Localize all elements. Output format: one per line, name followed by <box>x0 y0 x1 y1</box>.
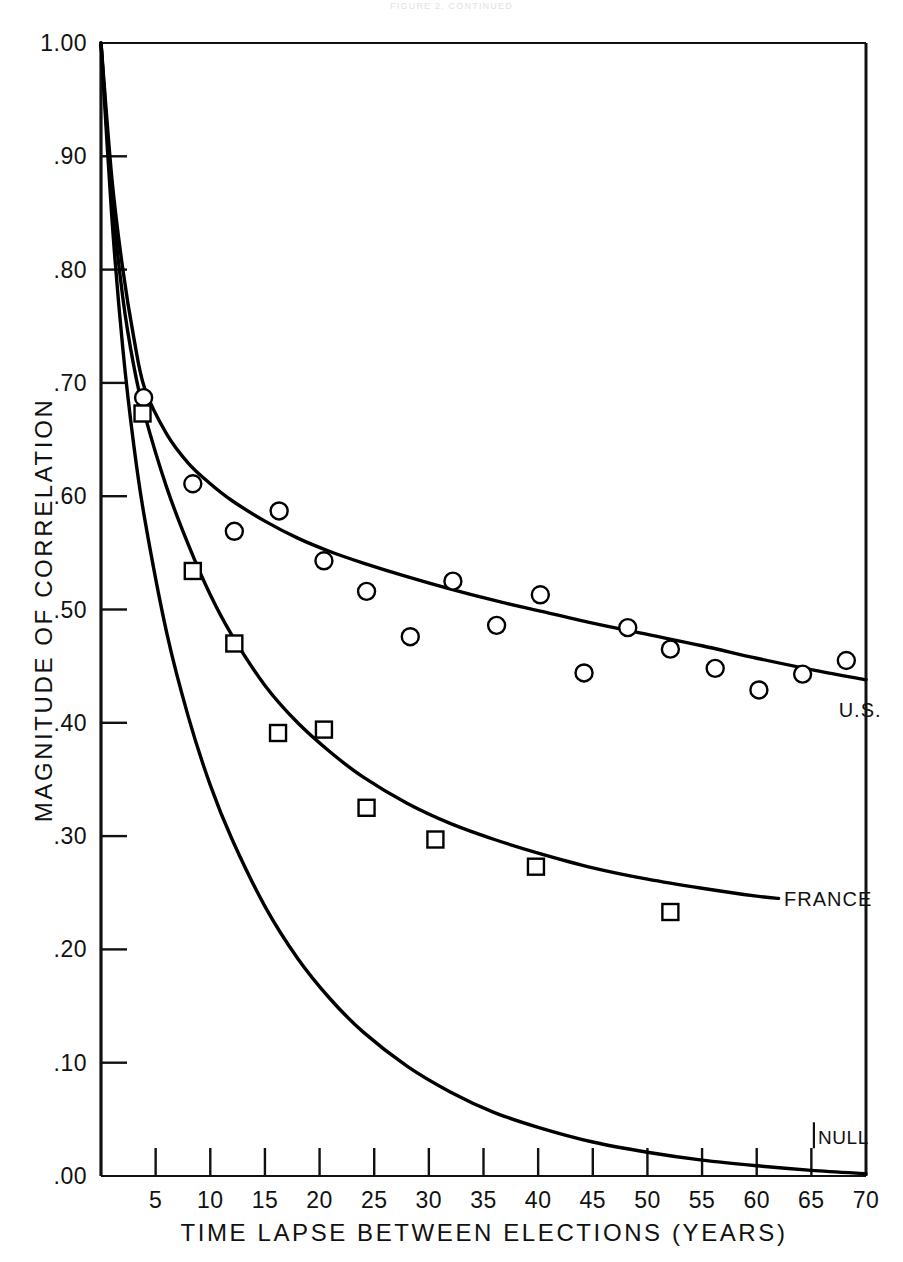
y-axis-title: MAGNITUDE OF CORRELATION <box>30 398 57 823</box>
data-point-france <box>226 635 242 651</box>
y-tick-label: .50 <box>54 597 87 623</box>
data-point-us <box>794 666 811 683</box>
data-point-us <box>707 660 724 677</box>
data-point-us <box>488 617 505 634</box>
data-point-france <box>135 405 151 421</box>
data-point-us <box>750 681 767 698</box>
data-point-us <box>271 502 288 519</box>
x-axis-title: TIME LAPSE BETWEEN ELECTIONS (YEARS) <box>180 1219 787 1246</box>
y-tick-label: .60 <box>54 483 87 509</box>
x-tick-label: 15 <box>252 1187 279 1213</box>
x-tick-label: 20 <box>306 1187 333 1213</box>
x-tick-label: 25 <box>361 1187 388 1213</box>
data-point-france <box>185 563 201 579</box>
data-point-us <box>444 573 461 590</box>
y-tick-label: .90 <box>54 143 87 169</box>
data-point-france <box>662 904 678 920</box>
x-tick-label: 50 <box>634 1187 661 1213</box>
x-tick-label: 40 <box>525 1187 552 1213</box>
data-point-us <box>532 586 549 603</box>
y-tick-label: 1.00 <box>40 30 87 56</box>
x-tick-label: 5 <box>149 1187 162 1213</box>
y-tick-label: .70 <box>54 370 87 396</box>
curve-us <box>101 43 866 680</box>
y-tick-label: .10 <box>54 1050 87 1076</box>
data-point-france <box>427 832 443 848</box>
data-point-us <box>184 475 201 492</box>
x-tick-label: 30 <box>416 1187 443 1213</box>
y-tick-label: .00 <box>54 1163 87 1189</box>
x-tick-label: 55 <box>689 1187 716 1213</box>
y-tick-label: .30 <box>54 823 87 849</box>
y-tick-label: .40 <box>54 710 87 736</box>
france-curve-label: FRANCE <box>784 888 872 910</box>
y-tick-label: .80 <box>54 257 87 283</box>
null-curve-label: NULL <box>818 1127 869 1148</box>
us-curve-label: U.S. <box>839 699 882 721</box>
data-point-us <box>619 619 636 636</box>
data-point-us <box>226 523 243 540</box>
curve-france <box>101 43 779 898</box>
data-point-us <box>135 389 152 406</box>
y-tick-label: .20 <box>54 936 87 962</box>
data-point-france <box>270 725 286 741</box>
x-axis-tick-labels: 510152025303540455055606570 <box>149 1187 879 1213</box>
series-curves <box>101 43 866 1174</box>
x-tick-label: 60 <box>743 1187 770 1213</box>
x-tick-label: 10 <box>197 1187 224 1213</box>
figure-chart: .00.10.20.30.40.50.60.70.80.901.00 51015… <box>0 0 903 1262</box>
data-point-france <box>359 800 375 816</box>
data-point-us <box>662 641 679 658</box>
x-tick-label: 70 <box>853 1187 880 1213</box>
x-tick-label: 65 <box>798 1187 825 1213</box>
x-tick-label: 45 <box>579 1187 606 1213</box>
x-tick-label: 35 <box>470 1187 497 1213</box>
data-point-france <box>528 859 544 875</box>
data-point-france <box>316 722 332 738</box>
data-point-us <box>838 652 855 669</box>
data-point-us <box>315 552 332 569</box>
data-point-us <box>576 664 593 681</box>
chart-svg: .00.10.20.30.40.50.60.70.80.901.00 51015… <box>0 0 903 1262</box>
data-point-us <box>358 583 375 600</box>
data-point-us <box>402 628 419 645</box>
